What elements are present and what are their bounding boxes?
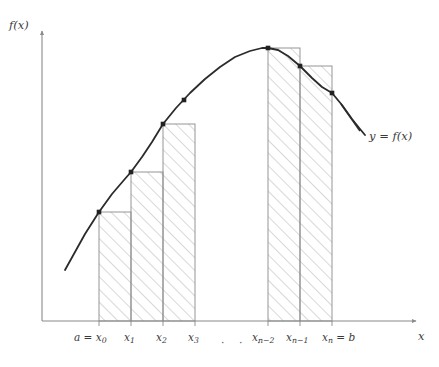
curve-label: y = f(x) xyxy=(369,131,412,143)
curve-label-leader xyxy=(341,104,360,131)
rect-4 xyxy=(300,66,332,321)
y-axis-label: f(x) xyxy=(9,20,29,32)
tick-label-x0-sub: 0 xyxy=(102,336,107,345)
marker-x2 xyxy=(161,122,166,127)
tick-label-x2-sub: 2 xyxy=(162,336,167,345)
marker-xn-2 xyxy=(266,46,271,51)
rectangle-group-right xyxy=(268,48,332,321)
rectangle-group-left xyxy=(99,124,195,321)
rect-2 xyxy=(163,124,195,321)
marker-xn-1 xyxy=(298,64,303,69)
figure-canvas xyxy=(0,0,439,367)
rect-1 xyxy=(131,172,163,321)
tick-label-x3: x3 xyxy=(188,332,199,345)
tick-label-xn-2: xn−2 xyxy=(252,332,274,345)
x-axis-label: x xyxy=(418,331,425,343)
marker-x0 xyxy=(97,210,102,215)
rect-0 xyxy=(99,212,131,321)
tick-label-xn-1-sub: n−1 xyxy=(292,336,308,345)
tick-label-x1: x1 xyxy=(124,332,135,345)
tick-label-x2: x2 xyxy=(156,332,167,345)
tick-label-x0: a = x0 xyxy=(74,332,107,345)
tick-label-xn-1: xn−1 xyxy=(286,332,308,345)
tick-label-x0-base: a = x xyxy=(74,331,102,343)
rect-3 xyxy=(268,48,300,321)
marker-x3 xyxy=(182,98,187,103)
x-axis-ticks xyxy=(99,321,332,326)
riemann-sum-figure: f(x) x y = f(x) a = x0 x1 x2 x3 · · · xn… xyxy=(0,0,439,367)
tick-label-xn-tail: = b xyxy=(333,331,355,343)
tick-label-x1-sub: 1 xyxy=(130,336,135,345)
tick-label-xn: xn = b xyxy=(322,332,355,345)
marker-xn xyxy=(330,91,335,96)
tick-label-x3-sub: 3 xyxy=(194,336,199,345)
tick-label-xn-2-sub: n−2 xyxy=(258,336,274,345)
marker-x1 xyxy=(129,170,134,175)
